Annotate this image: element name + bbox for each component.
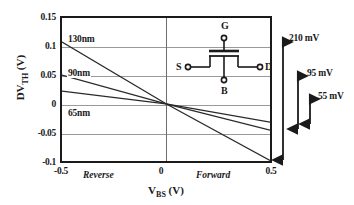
y-axis-title-unit: (V) xyxy=(14,55,26,73)
region-label-forward: Forward xyxy=(196,170,230,180)
series-label-65nm: 65nm xyxy=(67,108,91,118)
annotation-arrows xyxy=(274,30,314,170)
y-tick-0.15: 0.15 xyxy=(0,12,56,22)
annotation-label-55mv: 55 mV xyxy=(318,91,344,101)
mosfet-drain-label: D xyxy=(265,61,270,72)
region-label-reverse: Reverse xyxy=(83,170,114,180)
x-axis-title: VBS (V) xyxy=(60,184,272,199)
y-tick--0.05: -0.05 xyxy=(0,128,56,138)
y-axis-title-main: DV xyxy=(14,84,26,100)
mosfet-body-label: B xyxy=(221,85,228,96)
series-label-90nm: 90nm xyxy=(67,68,91,78)
series-label-130nm: 130nm xyxy=(67,34,95,44)
plot-area: 130nm 90nm 65nm xyxy=(60,16,272,163)
mosfet-source-label: S xyxy=(176,61,182,72)
figure-root: 130nm 90nm 65nm xyxy=(0,0,354,205)
x-tick--0.5: -0.5 xyxy=(46,166,76,176)
mosfet-gate-label: G xyxy=(221,20,229,31)
y-axis-title: DVTH (V) xyxy=(14,38,29,118)
x-axis-title-unit: (V) xyxy=(166,184,184,196)
annotation-label-210mv: 210 mV xyxy=(289,33,319,43)
plot-inner: 130nm 90nm 65nm xyxy=(62,18,270,161)
x-axis-title-main: V xyxy=(148,184,156,196)
annotation-label-95mv: 95 mV xyxy=(307,68,333,78)
x-tick-0: 0 xyxy=(151,166,171,176)
y-axis-title-sub: TH xyxy=(21,73,30,85)
x-axis-title-sub: BS xyxy=(156,190,166,199)
